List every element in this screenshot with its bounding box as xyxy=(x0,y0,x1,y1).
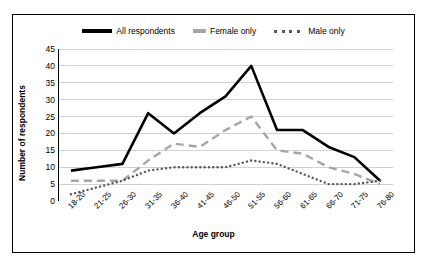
y-tick-label: 0 xyxy=(50,197,55,206)
y-tick-label: 5 xyxy=(50,180,55,189)
y-tick-label: 35 xyxy=(46,79,55,88)
x-axis-title: Age group xyxy=(13,229,414,239)
y-tick-label: 20 xyxy=(46,129,55,138)
y-tick-label: 15 xyxy=(46,146,55,155)
y-tick-label: 40 xyxy=(46,62,55,71)
series-svg xyxy=(58,49,393,201)
y-axis-title-text: Number of respondents xyxy=(15,73,29,193)
y-axis-ticks: 051015202530354045 xyxy=(31,45,55,203)
y-axis-title: Number of respondents xyxy=(15,0,29,73)
y-tick-label: 25 xyxy=(46,112,55,121)
y-tick-label: 45 xyxy=(46,45,55,54)
y-tick-label: 10 xyxy=(46,163,55,172)
plot-area: Number of respondents 051015202530354045… xyxy=(13,15,414,252)
plot-canvas xyxy=(58,49,393,201)
y-tick-label: 30 xyxy=(46,95,55,104)
chart-figure: All respondents Female only Male only Nu… xyxy=(12,14,415,253)
